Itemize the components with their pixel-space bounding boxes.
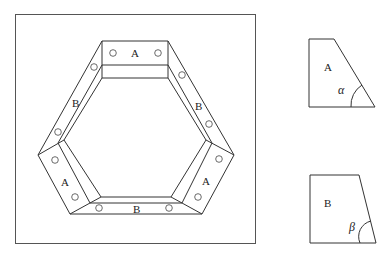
piece-a-angle: α bbox=[338, 83, 345, 97]
detail-piece-a: A α bbox=[309, 39, 375, 107]
hole bbox=[55, 129, 62, 136]
hole bbox=[52, 157, 59, 164]
hole bbox=[91, 64, 98, 71]
hexagon-inner bbox=[64, 78, 206, 197]
hole bbox=[179, 72, 186, 79]
angle-beta-arc bbox=[359, 221, 371, 243]
assembly-diagram: A B B A bbox=[0, 0, 392, 254]
hexagon-outer bbox=[38, 41, 234, 214]
label-lower-right: A bbox=[202, 175, 210, 187]
angle-alpha-arc bbox=[351, 85, 362, 107]
piece-b-label: B bbox=[324, 197, 331, 209]
label-top: A bbox=[131, 47, 139, 59]
piece-upper-right-b: B bbox=[168, 65, 234, 155]
piece-bottom-b: B bbox=[90, 203, 182, 215]
detail-piece-b: B β bbox=[310, 175, 376, 243]
hole bbox=[110, 50, 117, 57]
hole bbox=[96, 205, 103, 212]
piece-a-label: A bbox=[324, 61, 332, 73]
piece-b-outline bbox=[310, 175, 376, 243]
hole bbox=[216, 156, 223, 163]
label-lower-left: A bbox=[61, 176, 69, 188]
hole bbox=[206, 121, 213, 128]
piece-top-a: A bbox=[102, 41, 168, 78]
hexagon-frame: A B B A bbox=[38, 41, 234, 215]
label-bottom: B bbox=[133, 203, 140, 215]
hole bbox=[72, 194, 79, 201]
piece-b-angle: β bbox=[348, 220, 355, 234]
hole bbox=[166, 205, 173, 212]
label-upper-left: B bbox=[72, 97, 79, 109]
hole bbox=[155, 50, 162, 57]
label-upper-right: B bbox=[195, 100, 202, 112]
piece-upper-left-b: B bbox=[38, 64, 102, 155]
hole bbox=[195, 194, 202, 201]
